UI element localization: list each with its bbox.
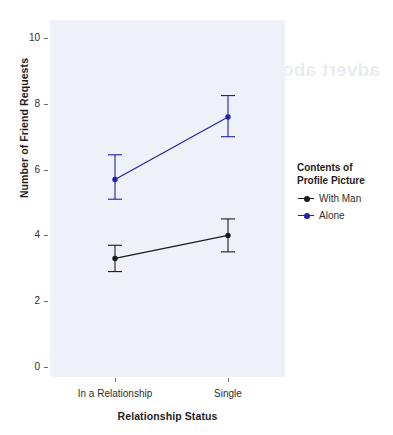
- y-tick-label: 4: [8, 230, 40, 240]
- y-tick-mark: [44, 367, 48, 368]
- x-tick-label: Single: [158, 388, 298, 399]
- y-tick-mark: [44, 170, 48, 171]
- y-tick-mark: [44, 38, 48, 39]
- legend: Contents of Profile Picture With ManAlon…: [297, 162, 393, 224]
- y-tick-label: 2: [8, 296, 40, 306]
- y-tick-label: 0: [8, 362, 40, 372]
- plot-panel: [50, 20, 285, 377]
- data-point: [225, 114, 230, 119]
- legend-title-line-1: Contents of: [297, 162, 389, 175]
- legend-key-icon: [297, 192, 315, 206]
- legend-items: With ManAlone: [297, 190, 393, 224]
- data-point: [112, 256, 117, 261]
- y-axis-title: Number of Friend Requests: [18, 28, 30, 228]
- legend-item[interactable]: Alone: [297, 207, 393, 224]
- x-axis-title: Relationship Status: [50, 410, 285, 422]
- legend-label: Alone: [319, 210, 345, 221]
- x-tick-mark: [115, 378, 116, 382]
- data-point: [225, 233, 230, 238]
- y-tick-mark: [44, 235, 48, 236]
- legend-label: With Man: [319, 193, 361, 204]
- legend-title: Contents of Profile Picture: [297, 162, 389, 187]
- legend-item[interactable]: With Man: [297, 190, 393, 207]
- x-tick-mark: [228, 378, 229, 382]
- y-tick-mark: [44, 301, 48, 302]
- legend-key-icon: [297, 209, 315, 223]
- series-with-man: [108, 219, 235, 272]
- data-point: [112, 177, 117, 182]
- chart-figure: advert about statistics 0246810 Number o…: [0, 0, 393, 435]
- legend-title-line-2: Profile Picture: [297, 175, 389, 188]
- plot-series-svg: [50, 20, 285, 377]
- series-alone: [108, 96, 235, 200]
- y-tick-mark: [44, 104, 48, 105]
